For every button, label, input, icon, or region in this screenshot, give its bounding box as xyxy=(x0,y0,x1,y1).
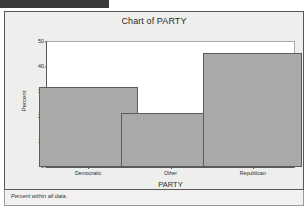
x-axis-title: PARTY xyxy=(46,180,295,189)
bar-slot xyxy=(203,42,302,167)
x-tick-mark xyxy=(253,167,254,169)
y-axis-title: Percent xyxy=(21,90,27,111)
x-tick-mark xyxy=(88,167,89,169)
chart-title: Chart of PARTY xyxy=(5,16,303,26)
bar[interactable] xyxy=(203,53,302,167)
screenshot-root: Chart of PARTY Percent 01020304050 Democ… xyxy=(0,0,308,210)
footnote-text: Percent within all data. xyxy=(11,193,67,199)
plot-area: 01020304050 DemocraticOtherRepublican xyxy=(46,41,295,168)
x-tick-label: Democratic xyxy=(75,171,101,176)
x-tick-mark xyxy=(171,167,172,169)
footnote-strip: Percent within all data. xyxy=(4,190,304,206)
x-tick-label: Other xyxy=(164,171,177,176)
redaction-bar xyxy=(0,0,109,8)
chart-panel: Chart of PARTY Percent 01020304050 Democ… xyxy=(4,11,304,190)
x-tick-label: Republican xyxy=(240,171,266,176)
